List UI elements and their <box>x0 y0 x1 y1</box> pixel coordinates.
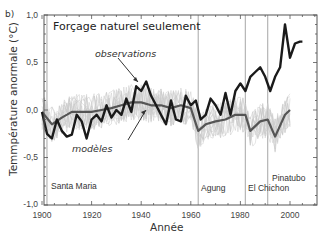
y-tick-label: 0,5 <box>14 57 38 67</box>
plot-area <box>0 0 330 244</box>
x-tick-label: 1940 <box>126 210 156 220</box>
observations-annotation: observations <box>95 48 156 59</box>
volcano-label-pinatubo: Pinatubo <box>272 173 306 183</box>
y-tick-label: 0,0 <box>14 105 38 115</box>
x-tick-label: 1980 <box>225 210 255 220</box>
y-tick-label: 1,0 <box>14 10 38 20</box>
panel-label: b) <box>5 9 14 19</box>
arrow-head-icon <box>133 77 138 82</box>
volcano-label-el-chichon: El Chichon <box>248 183 289 193</box>
x-tick-label: 1960 <box>176 210 206 220</box>
x-axis-label: Année <box>150 221 183 233</box>
volcano-label-santa-maria: Santa Maria <box>51 181 97 191</box>
x-tick-label: 2000 <box>275 210 305 220</box>
y-tick-label: -0,5 <box>14 152 38 162</box>
chart-figure: b) Forçage naturel seulement Temmpératur… <box>0 0 330 244</box>
volcano-label-agung: Agung <box>201 183 226 193</box>
chart-title: Forçage naturel seulement <box>53 20 201 33</box>
x-tick-label: 1900 <box>27 210 57 220</box>
models-annotation: modèles <box>72 143 112 154</box>
x-tick-label: 1920 <box>77 210 107 220</box>
y-tick-label: -1,0 <box>14 199 38 209</box>
